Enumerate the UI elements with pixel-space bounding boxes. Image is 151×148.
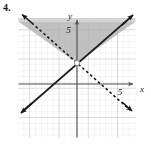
y-axis-label: y — [67, 11, 72, 21]
coordinate-plane: 5 5 y x — [0, 0, 151, 148]
graph-svg: 5 5 y x — [0, 0, 151, 148]
y-axis-tick-label: 5 — [66, 25, 71, 35]
figure-container: 4. — [0, 0, 151, 148]
x-axis-label: x — [139, 84, 144, 94]
intersection-point — [74, 60, 79, 65]
x-axis-tick-label: 5 — [118, 87, 123, 97]
